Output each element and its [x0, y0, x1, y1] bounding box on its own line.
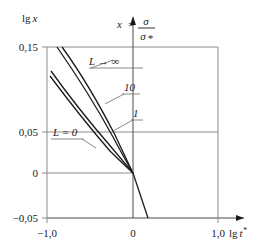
- formula-lhs: x: [116, 18, 122, 30]
- curve-label-10: 10: [124, 81, 136, 93]
- y-axis-title: lgx: [22, 12, 38, 24]
- chart-svg: lgx lgt* 0,15 0,05 0 −0,05 −1,0 0 1,0 L …: [0, 0, 266, 250]
- y-tick-label-3: −0,05: [13, 212, 39, 224]
- y-tick-label-0: 0,15: [19, 41, 39, 53]
- formula-equals: =: [128, 18, 134, 30]
- x-tick-label-0: −1,0: [37, 227, 57, 239]
- x-axis-title-star: *: [243, 226, 247, 235]
- chart-figure: lgx lgt* 0,15 0,05 0 −0,05 −1,0 0 1,0 L …: [0, 0, 266, 250]
- curve-label-1: 1: [133, 107, 139, 119]
- curve-label-L-infinity: L → ∞: [88, 55, 119, 67]
- x-tick-label-1: 0: [130, 227, 136, 239]
- y-axis-title-var: x: [32, 12, 38, 24]
- formula-denominator: σ: [140, 30, 146, 42]
- x-tick-label-2: 1,0: [211, 227, 225, 239]
- y-tick-label-1: 0,05: [19, 126, 39, 138]
- formula-numerator: σ: [143, 15, 149, 27]
- curve-label-L-0: L = 0: [52, 126, 78, 138]
- y-axis-title-lg: lg: [22, 12, 31, 24]
- x-axis-title-lg: lg: [229, 227, 238, 239]
- y-tick-label-2: 0: [33, 167, 39, 179]
- formula-denominator-subscript: *: [147, 32, 153, 44]
